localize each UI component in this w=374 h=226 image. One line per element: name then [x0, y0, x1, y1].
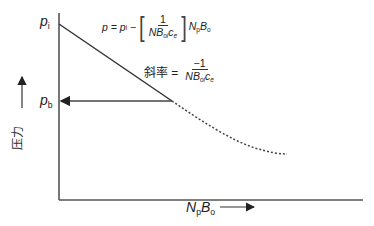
dotted-curve-path: [172, 101, 287, 154]
pb-main: p: [40, 92, 48, 108]
pb-sub: b: [48, 100, 53, 110]
eq-den-e: e: [174, 33, 178, 40]
eq-frac-num: 1: [158, 14, 168, 27]
eq-den-nb: NB: [149, 26, 164, 38]
slope-label: 斜率 =: [144, 63, 178, 80]
eq-frac-den: NBoice: [147, 26, 180, 40]
x-label-b: B: [201, 199, 210, 215]
left-bracket: [: [139, 11, 145, 42]
slope-den: NBoice: [183, 70, 216, 84]
slope-den-nb: NB: [185, 70, 200, 82]
x-axis-label: NpBo: [186, 199, 215, 217]
eq-lhs: p = p: [102, 21, 126, 33]
pi-sub: i: [48, 21, 50, 31]
slope-fraction: −1 NBoice: [183, 58, 216, 85]
equation: p = pi − [ 1 NBoice ] NpBo: [102, 14, 211, 40]
eq-fraction: 1 NBoice: [147, 14, 180, 41]
x-label-n: N: [186, 199, 196, 215]
y-axis-label: 压力: [8, 126, 25, 150]
slope-num: −1: [192, 58, 208, 71]
eq-tail: NpBo: [189, 20, 211, 33]
eq-tail-b: B: [200, 20, 207, 32]
pi-label: pi: [40, 13, 50, 31]
slope-den-e: e: [210, 77, 214, 84]
right-bracket: ]: [181, 11, 187, 42]
slope-equation: 斜率 = −1 NBoice: [144, 56, 218, 86]
diagram: pi pb 压力 NpBo p = pi − [ 1 NBoice ] NpBo…: [0, 0, 374, 226]
eq-tail-o: o: [207, 27, 211, 34]
pi-main: p: [40, 13, 48, 29]
x-label-sub-o: o: [210, 207, 215, 217]
pb-label: pb: [40, 92, 53, 110]
eq-minus: −: [127, 21, 139, 33]
